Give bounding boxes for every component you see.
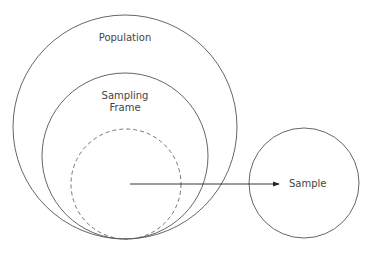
sampling-frame-label-line2: Frame xyxy=(109,102,140,113)
sampling-diagram: Population Sampling Frame Sample xyxy=(0,0,371,254)
sampling-frame-label-line1: Sampling xyxy=(102,90,149,101)
population-label: Population xyxy=(99,32,152,43)
population-circle xyxy=(13,15,237,239)
sample-label: Sample xyxy=(289,178,327,189)
